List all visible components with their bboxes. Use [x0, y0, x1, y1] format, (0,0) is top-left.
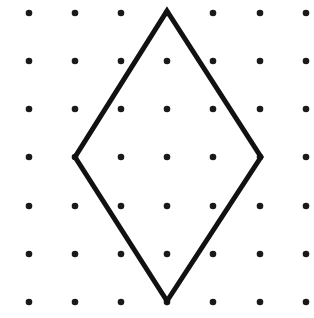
grid-dot	[164, 203, 171, 210]
grid-dot	[72, 299, 79, 306]
grid-dot	[26, 299, 33, 306]
grid-dot	[118, 299, 125, 306]
grid-dot	[26, 58, 33, 65]
grid-dots	[26, 10, 310, 306]
grid-dot	[257, 106, 264, 113]
grid-dot	[210, 58, 217, 65]
grid-dot	[72, 58, 79, 65]
grid-dot	[303, 203, 310, 210]
grid-dot	[164, 106, 171, 113]
grid-dot	[303, 10, 310, 17]
grid-dot	[164, 251, 171, 258]
grid-dot	[118, 10, 125, 17]
grid-dot	[26, 154, 33, 161]
grid-dot	[257, 251, 264, 258]
grid-dot	[210, 203, 217, 210]
grid-dot	[26, 106, 33, 113]
grid-dot	[72, 203, 79, 210]
grid-dot	[26, 203, 33, 210]
grid-dot	[26, 251, 33, 258]
grid-dot	[257, 299, 264, 306]
grid-dot	[26, 10, 33, 17]
grid-dot	[303, 299, 310, 306]
grid-dot	[72, 106, 79, 113]
grid-dot	[210, 299, 217, 306]
grid-dot	[118, 251, 125, 258]
grid-dot	[257, 203, 264, 210]
grid-dot	[257, 58, 264, 65]
grid-dot	[164, 58, 171, 65]
grid-dot	[164, 154, 171, 161]
grid-dot	[303, 106, 310, 113]
grid-dot	[303, 58, 310, 65]
grid-dot	[303, 154, 310, 161]
grid-dot	[72, 10, 79, 17]
grid-dot	[118, 203, 125, 210]
grid-dot	[118, 58, 125, 65]
grid-dot	[118, 154, 125, 161]
grid-dot	[257, 10, 264, 17]
grid-dot	[303, 251, 310, 258]
grid-dot	[210, 106, 217, 113]
grid-dot	[118, 106, 125, 113]
grid-dot	[210, 10, 217, 17]
grid-dot	[72, 251, 79, 258]
grid-dot	[210, 251, 217, 258]
dot-grid-diagram	[0, 0, 314, 318]
grid-dot	[210, 154, 217, 161]
